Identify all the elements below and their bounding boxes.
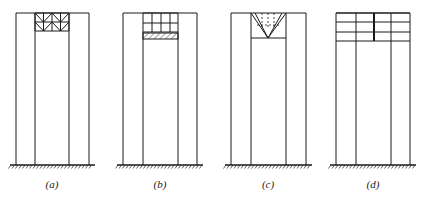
frame-panel-a	[9, 13, 96, 169]
panel-label-c: (c)	[262, 178, 274, 190]
frame-panel-c	[224, 13, 313, 169]
panel-label-a: (a)	[46, 178, 59, 190]
ground-support	[9, 165, 96, 169]
transfer-beam	[143, 33, 178, 39]
ground-support	[329, 165, 417, 169]
panel-label-b: (b)	[154, 178, 167, 190]
ground-support	[116, 165, 204, 169]
panel-label-d: (d)	[367, 178, 380, 190]
frame-panel-b	[116, 13, 204, 169]
ground-support	[224, 165, 313, 169]
structural-frames-figure	[0, 0, 424, 203]
frame-panel-d	[329, 13, 417, 169]
